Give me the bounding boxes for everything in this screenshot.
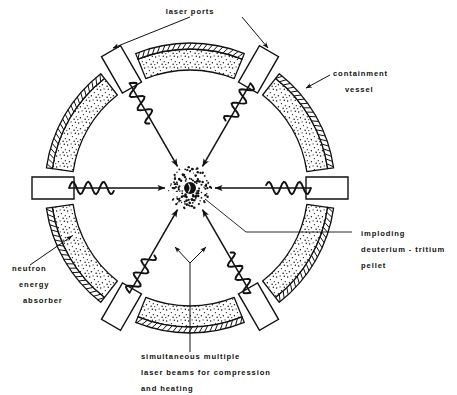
label-laser-ports: laser ports: [166, 7, 215, 16]
label-beams-line3: and heating: [141, 384, 194, 393]
label-absorber-line2: energy: [19, 280, 49, 289]
figure-canvas: laser ports containment vessel imploding…: [0, 0, 457, 395]
leader-beams-fork-right: [190, 247, 206, 263]
vessel-wall-segment: [136, 43, 245, 79]
laser-beam: [215, 182, 311, 194]
laser-port: [306, 177, 348, 199]
leader-beams-fork-left: [175, 247, 190, 263]
label-containment-line2: vessel: [345, 85, 374, 94]
laser-fusion-diagram: laser ports containment vessel imploding…: [0, 0, 457, 395]
label-absorber-line1: neutron: [12, 264, 47, 273]
laser-beam: [126, 210, 178, 293]
imploding-pellet: [168, 166, 212, 209]
vessel-wall-segment: [263, 204, 334, 302]
vessel-wall-segment: [46, 74, 117, 172]
vessel-wall-segment: [46, 204, 117, 302]
label-absorber-line3: absorber: [23, 296, 63, 305]
laser-beam: [203, 210, 251, 294]
laser-beam: [69, 182, 165, 194]
vessel-wall-segment: [263, 74, 334, 172]
label-beams-line1: simultaneous multiple: [141, 352, 240, 361]
label-beams-line2: laser beams for compression: [141, 368, 271, 377]
label-pellet-line1: imploding: [361, 229, 405, 238]
leader-containment: [306, 75, 330, 88]
laser-beam: [130, 83, 178, 167]
label-pellet-line2: deuterium - tritium: [361, 245, 445, 254]
label-pellet-line3: pellet: [361, 261, 386, 270]
label-containment-line1: containment: [333, 69, 388, 78]
leader-laser-ports-right: [242, 17, 268, 48]
laser-beam: [203, 83, 255, 166]
laser-port: [32, 177, 74, 199]
